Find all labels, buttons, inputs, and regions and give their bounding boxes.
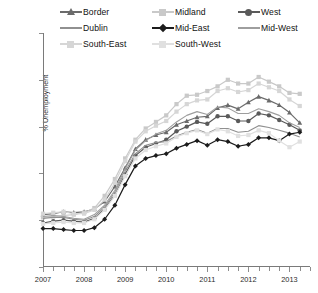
data-point [154, 124, 158, 128]
legend-row: BorderMidlandWest [60, 4, 312, 20]
data-point [226, 114, 230, 118]
x-tick-mark-minor [105, 267, 106, 271]
legend-swatch-icon [238, 6, 260, 18]
data-point [277, 118, 281, 122]
x-tick-mark-major [43, 267, 44, 272]
data-point [246, 119, 250, 123]
x-tick-mark-minor [197, 267, 198, 271]
data-point [236, 134, 240, 138]
data-point [256, 111, 260, 115]
x-tick-mark-minor [269, 267, 270, 271]
chart-root: BorderMidlandWestDublinMid-EastMid-WestS… [0, 0, 318, 293]
data-point [236, 144, 241, 149]
data-point [298, 92, 302, 96]
data-point [267, 80, 271, 84]
plot-area: % Unemployment 0510152025 20072008200920… [43, 33, 310, 267]
data-point [51, 221, 55, 225]
legend-swatch-icon [152, 6, 174, 18]
data-point [205, 132, 209, 136]
data-point [51, 211, 55, 215]
legend-swatch-icon [60, 6, 82, 18]
data-point [92, 208, 96, 212]
data-point [195, 120, 199, 124]
data-point [164, 113, 168, 117]
data-point [195, 128, 199, 132]
x-tick-mark-minor [259, 267, 260, 271]
data-point [225, 102, 230, 107]
data-point [298, 139, 302, 143]
series-mid-east [41, 130, 303, 233]
data-point [51, 226, 56, 231]
x-tick-mark-minor [74, 267, 75, 271]
x-tick-mark-major [84, 267, 85, 272]
legend-label: West [260, 7, 281, 17]
data-point [225, 139, 230, 144]
data-point [113, 181, 117, 185]
data-point [144, 129, 148, 133]
data-point [195, 98, 199, 102]
x-tick-label: 2012 [228, 275, 268, 284]
data-point [103, 208, 107, 212]
x-tick-mark-minor [156, 267, 157, 271]
data-point [82, 228, 87, 233]
x-tick-mark-minor [94, 267, 95, 271]
x-tick-mark-minor [115, 267, 116, 271]
x-tick-label: 2010 [146, 275, 186, 284]
data-point [257, 81, 261, 85]
x-tick-label: 2008 [64, 275, 104, 284]
data-point [113, 194, 117, 198]
data-point [215, 89, 219, 93]
data-point [205, 143, 210, 148]
data-point [226, 86, 230, 90]
data-point [103, 198, 107, 202]
data-point [185, 94, 189, 98]
legend-marker-icon [245, 9, 252, 16]
data-point [257, 75, 261, 79]
series-line [43, 132, 300, 230]
x-tick-mark-major [125, 267, 126, 272]
data-point [246, 133, 250, 137]
data-point [184, 142, 189, 147]
data-point [123, 159, 127, 163]
data-point [92, 217, 96, 221]
data-point [185, 102, 189, 106]
data-point [123, 174, 127, 178]
data-point [195, 138, 200, 143]
data-point [185, 131, 189, 135]
legend-label: Midland [174, 7, 206, 17]
legend-item-border[interactable]: Border [60, 4, 152, 20]
x-tick-mark-major [166, 267, 167, 272]
data-point [236, 81, 240, 85]
data-point [205, 89, 209, 93]
data-point [185, 124, 189, 128]
data-point [287, 91, 291, 95]
data-point [267, 85, 271, 89]
data-point [153, 153, 158, 158]
legend-label: Dublin [82, 23, 108, 33]
data-point [277, 84, 281, 88]
legend-item-west[interactable]: West [238, 4, 312, 20]
series-line [43, 107, 300, 219]
legend-marker-icon [159, 24, 167, 32]
x-tick-mark-minor [238, 267, 239, 271]
x-tick-mark-minor [135, 267, 136, 271]
legend-label: Mid-East [174, 23, 210, 33]
legend-item-midland[interactable]: Midland [152, 4, 238, 20]
series-line [43, 84, 300, 214]
data-point [195, 93, 199, 97]
data-point [61, 227, 66, 232]
x-tick-mark-major [207, 267, 208, 272]
x-tick-mark-minor [228, 267, 229, 271]
data-point [123, 182, 128, 187]
x-tick-mark-major [289, 267, 290, 272]
series-layer [43, 33, 310, 267]
series-mid-west [43, 107, 300, 219]
x-tick-mark-minor [218, 267, 219, 271]
x-tick-mark-minor [310, 267, 311, 271]
data-point [164, 151, 169, 156]
data-point [215, 84, 219, 88]
x-tick-label: 2009 [105, 275, 145, 284]
x-tick-mark-minor [177, 267, 178, 271]
series-south-west [41, 127, 302, 226]
data-point [61, 220, 65, 224]
